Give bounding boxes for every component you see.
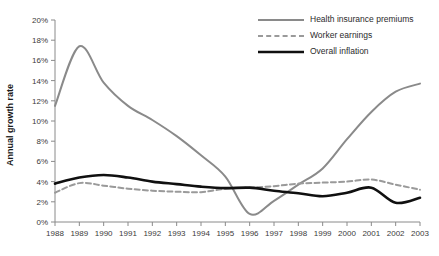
line-chart: 0%2%4%6%8%10%12%14%16%18%20% 19881989199…: [0, 0, 439, 256]
legend-label: Health insurance premiums: [310, 14, 413, 24]
legend-label: Worker earnings: [310, 30, 372, 40]
x-tick-label: 1991: [119, 229, 137, 238]
y-tick-label: 2%: [36, 198, 48, 207]
chart-container: 0%2%4%6%8%10%12%14%16%18%20% 19881989199…: [0, 0, 439, 256]
x-tick-label: 1992: [143, 229, 161, 238]
x-tick-label: 1990: [95, 229, 113, 238]
x-tick-label: 1997: [265, 229, 283, 238]
y-tick-label: 12%: [32, 97, 48, 106]
y-axis: 0%2%4%6%8%10%12%14%16%18%20%: [32, 16, 55, 227]
x-axis: 1988198919901991199219931994199519961997…: [46, 222, 429, 238]
x-tick-label: 1989: [70, 229, 88, 238]
y-tick-label: 10%: [32, 117, 48, 126]
x-tick-label: 1995: [216, 229, 234, 238]
x-tick-label: 2002: [387, 229, 405, 238]
y-tick-label: 18%: [32, 36, 48, 45]
y-axis-title: Annual growth rate: [5, 84, 15, 166]
y-tick-label: 16%: [32, 56, 48, 65]
x-tick-label: 2000: [338, 229, 356, 238]
legend-label: Overall inflation: [310, 46, 369, 56]
y-axis-title-text: Annual growth rate: [5, 84, 15, 166]
y-tick-label: 6%: [36, 157, 48, 166]
y-tick-label: 14%: [32, 77, 48, 86]
x-tick-label: 1996: [241, 229, 259, 238]
y-tick-label: 8%: [36, 137, 48, 146]
x-tick-label: 1994: [192, 229, 210, 238]
x-tick-label: 1998: [289, 229, 307, 238]
x-tick-label: 1988: [46, 229, 64, 238]
series-line: [55, 46, 420, 215]
x-tick-label: 1993: [168, 229, 186, 238]
series-lines: [55, 46, 420, 215]
x-tick-label: 1999: [314, 229, 332, 238]
series-line: [55, 179, 420, 192]
x-tick-label: 2001: [362, 229, 380, 238]
y-tick-label: 0%: [36, 218, 48, 227]
y-tick-label: 20%: [32, 16, 48, 25]
y-tick-label: 4%: [36, 178, 48, 187]
chart-legend: Health insurance premiumsWorker earnings…: [258, 14, 413, 56]
x-tick-label: 2003: [411, 229, 429, 238]
